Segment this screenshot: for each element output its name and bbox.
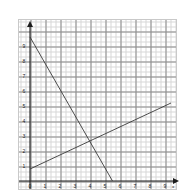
axes-group [19,21,179,189]
x-tick-8: 8 [146,184,154,189]
y-tick-3: 3 [20,134,28,139]
y-tick-9: 9 [20,44,28,49]
x-tick-5: 5 [101,184,109,189]
y-tick-8: 8 [20,59,28,64]
x-tick-4: 4 [86,184,94,189]
y-tick-1: 1 [20,164,28,169]
graph-figure: 0123456789 123456789 x [0,0,188,195]
x-tick-7: 7 [131,184,139,189]
x-axis-label: x [172,184,174,189]
data-series-group [30,37,171,181]
x-tick-3: 3 [71,184,79,189]
y-tick-6: 6 [20,89,28,94]
y-axis-arrow-icon [27,21,33,27]
x-tick-1: 1 [41,184,49,189]
series-ascending-line [30,103,171,169]
axes-and-data-layer [0,0,188,195]
x-tick-2: 2 [56,184,64,189]
x-tick-9: 9 [161,184,169,189]
x-tick-6: 6 [116,184,124,189]
y-tick-5: 5 [20,104,28,109]
y-tick-2: 2 [20,149,28,154]
x-tick-0: 0 [26,184,34,189]
y-tick-4: 4 [20,119,28,124]
y-tick-7: 7 [20,74,28,79]
series-descending-line [30,37,113,181]
